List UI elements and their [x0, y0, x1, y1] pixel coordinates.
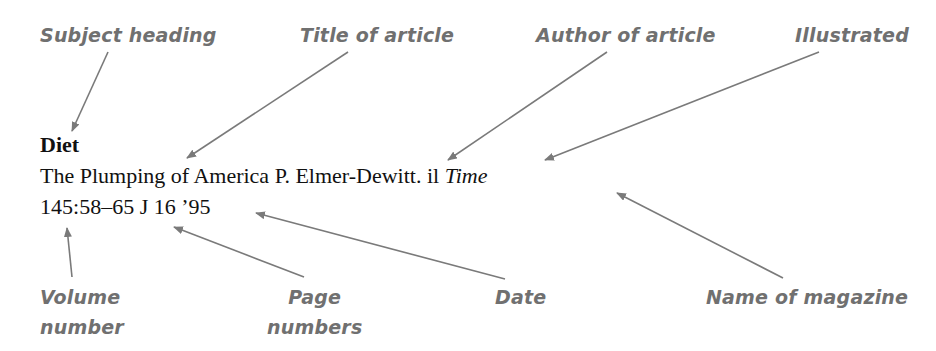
arrow-volume-number-icon — [67, 228, 72, 277]
arrow-author-of-article-icon — [448, 52, 607, 160]
arrow-page-numbers-icon — [174, 227, 304, 277]
arrow-subject-heading-icon — [72, 52, 108, 131]
arrow-name-of-magazine-icon — [617, 193, 783, 278]
arrow-date-icon — [256, 213, 505, 279]
annotation-arrows — [0, 0, 936, 351]
arrow-illustrated-icon — [545, 52, 819, 160]
arrow-title-of-article-icon — [187, 52, 348, 158]
